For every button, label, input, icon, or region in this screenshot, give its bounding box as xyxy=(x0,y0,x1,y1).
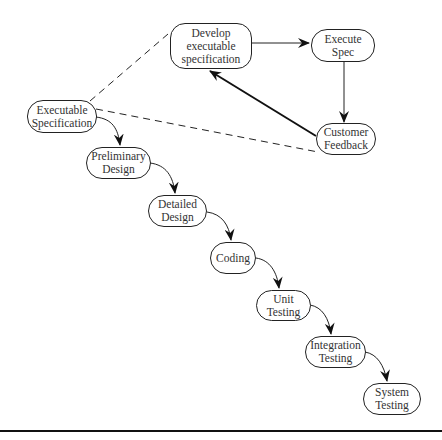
node-label-line: specification xyxy=(182,53,241,66)
arrow-coding-to-unit xyxy=(256,258,279,288)
node-label-line: executable xyxy=(186,40,235,53)
node-label-line: Specification xyxy=(32,117,93,130)
node-unit-testing: Unit Testing xyxy=(256,290,311,321)
node-label-line: Coding xyxy=(216,252,250,265)
arrow-integration-to-system xyxy=(365,352,387,381)
node-label-line: Testing xyxy=(319,352,353,365)
node-customer-feedback: Customer Feedback xyxy=(316,123,376,155)
node-label-line: Design xyxy=(102,163,135,176)
dashed-link-to-develop xyxy=(90,34,168,101)
dashed-link-to-feedback xyxy=(96,109,318,152)
node-label-line: System xyxy=(375,386,409,399)
node-label-line: Spec xyxy=(332,46,354,59)
node-label-line: Detailed xyxy=(158,198,197,211)
node-label-line: Design xyxy=(161,211,194,224)
node-integration-testing: Integration Testing xyxy=(305,336,366,368)
arrow-detailed-to-coding xyxy=(207,212,231,240)
node-label-line: Feedback xyxy=(324,139,368,152)
node-label-line: Integration xyxy=(310,339,360,352)
node-coding: Coding xyxy=(210,242,256,274)
node-label-line: Testing xyxy=(375,399,409,412)
arrow-execspec-to-preliminary xyxy=(96,117,120,145)
node-label-line: Customer xyxy=(324,126,369,139)
node-label-line: Executable xyxy=(36,104,87,117)
node-system-testing: System Testing xyxy=(363,383,421,415)
node-label-line: Unit xyxy=(273,293,293,306)
bottom-rule-divider xyxy=(0,430,442,432)
node-executable-specification: Executable Specification xyxy=(27,100,97,133)
node-label-line: Testing xyxy=(267,306,301,319)
node-preliminary-design: Preliminary Design xyxy=(86,147,151,179)
waterfall-executable-spec-diagram: Develop executable specification Execute… xyxy=(0,0,442,440)
node-execute-spec: Execute Spec xyxy=(311,29,375,62)
node-detailed-design: Detailed Design xyxy=(148,195,207,227)
arrow-unit-to-integration xyxy=(310,305,331,334)
arrow-feedback-to-develop xyxy=(210,71,316,136)
node-develop-executable-specification: Develop executable specification xyxy=(170,23,252,69)
node-label-line: Execute xyxy=(324,33,361,46)
node-label-line: Preliminary xyxy=(91,150,145,163)
arrow-preliminary-to-detailed xyxy=(150,163,175,193)
node-label-line: Develop xyxy=(192,27,231,40)
